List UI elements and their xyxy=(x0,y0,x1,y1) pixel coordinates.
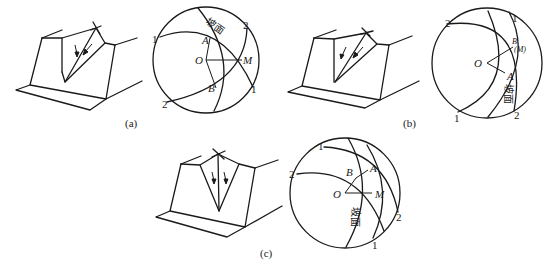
block-back-edge-left xyxy=(314,30,336,38)
plane-2-label-right: 2 xyxy=(396,211,402,223)
plane-2-label-bottom: 2 xyxy=(162,98,168,110)
panel-b: 坡面 B (M) O A 2 1 1 2 (b) xyxy=(288,8,542,130)
panel-c: 坡面 B A O M 1 2 2 1 (c) xyxy=(156,138,402,260)
wedge-apex-cross xyxy=(91,22,101,34)
point-O-label: O xyxy=(195,54,203,66)
point-B-label: B xyxy=(208,82,215,94)
plane-1-label-bottom: 1 xyxy=(251,83,257,95)
block-back-edge-right xyxy=(115,38,137,45)
point-M-label: M xyxy=(374,188,385,200)
point-M-label: (M) xyxy=(514,45,526,54)
stereonet-c: 坡面 B A O M 1 2 2 1 xyxy=(289,138,402,251)
plane-1-label-top: 1 xyxy=(152,33,158,45)
point-A-label: A xyxy=(506,70,514,82)
block-base xyxy=(288,81,419,108)
block-back-edge-left xyxy=(181,156,201,164)
block-diagram-c xyxy=(156,149,282,237)
block-back-edge-right xyxy=(255,160,278,168)
point-A-label: A xyxy=(201,34,209,46)
plane-2-label-top: 2 xyxy=(445,17,451,29)
sliding-arrows xyxy=(340,47,363,59)
sliding-arrows xyxy=(212,172,228,184)
plane-2-label-left: 2 xyxy=(289,168,295,180)
plane-2-label-bottom: 2 xyxy=(514,109,520,121)
block-top-left xyxy=(42,38,62,72)
panel-a: 坡面 A O M B 1 1 2 2 (a) xyxy=(16,7,259,130)
point-O-label: O xyxy=(333,188,341,200)
block-top-left xyxy=(314,38,334,82)
plane-1-label-top: 1 xyxy=(318,140,324,152)
stereonet-a: 坡面 A O M B 1 1 2 2 xyxy=(152,7,259,113)
plane-1-label-bottom: 1 xyxy=(454,112,460,124)
slope-label: 坡面 xyxy=(350,207,362,227)
point-O-label: O xyxy=(474,57,482,69)
caption-b: (b) xyxy=(403,117,416,130)
block-diagram-a xyxy=(16,22,142,110)
stereonet-b: 坡面 B (M) O A 2 1 1 2 xyxy=(432,8,542,124)
caption-a: (a) xyxy=(125,117,138,130)
plane-2-label-top: 2 xyxy=(243,19,249,31)
caption-c: (c) xyxy=(260,247,273,260)
intersection-line xyxy=(218,154,219,211)
block-diagram-b xyxy=(288,28,419,108)
block-back-edge-left xyxy=(42,30,62,38)
point-M-label: M xyxy=(242,54,253,66)
slope-label: 坡面 xyxy=(503,84,515,104)
plane-1-label-top: 1 xyxy=(512,12,518,24)
point-A-label: A xyxy=(369,162,377,174)
block-crest xyxy=(62,28,115,45)
plane-2-great-circle xyxy=(297,173,384,231)
point-B-label: B xyxy=(346,166,353,178)
plane-1-label-bottom: 1 xyxy=(372,239,378,251)
block-back-edge-right xyxy=(389,36,412,45)
figure-canvas: 坡面 A O M B 1 1 2 2 (a) xyxy=(0,0,548,270)
